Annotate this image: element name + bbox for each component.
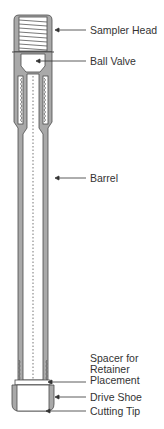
- label-cutting-tip: Cutting Tip: [90, 406, 140, 417]
- label-spacer-line3: Placement: [90, 375, 140, 386]
- sampler-body: [12, 15, 54, 411]
- sampler-diagram: [0, 0, 164, 429]
- label-drive-shoe: Drive Shoe: [90, 392, 142, 403]
- label-sampler-head: Sampler Head: [90, 25, 157, 36]
- label-ball-valve: Ball Valve: [90, 56, 136, 67]
- label-barrel: Barrel: [90, 173, 118, 184]
